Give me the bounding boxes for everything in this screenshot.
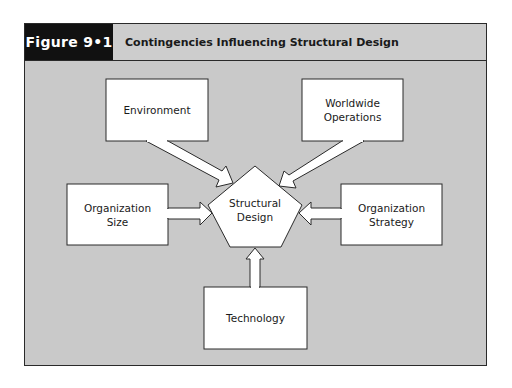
technology-arrow: [246, 248, 264, 287]
technology-label: Technology: [204, 287, 307, 349]
organization-strategy-label: Organization Strategy: [341, 184, 442, 245]
worldwide-operations-arrow: [279, 141, 364, 188]
environment-label: Environment: [106, 79, 208, 141]
environment-arrow: [146, 141, 233, 187]
organization-strategy-arrow: [299, 202, 341, 225]
organization-size-label: Organization Size: [67, 184, 168, 245]
organization-size-arrow: [168, 202, 212, 225]
worldwide-operations-label: Worldwide Operations: [302, 79, 403, 141]
structural-design-label: Structural Design: [215, 190, 295, 230]
